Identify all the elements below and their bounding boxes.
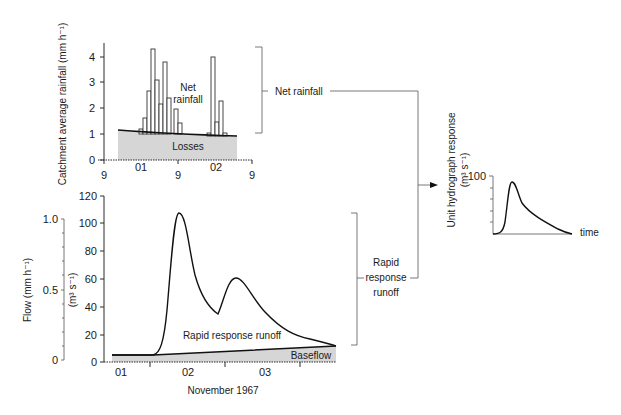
net-rainfall-area-label: Net [180, 82, 196, 93]
rapid-runoff-area-label: Rapid response runoff [183, 330, 281, 341]
flow-x-tick: 03 [259, 366, 271, 378]
net-rainfall-area-label: rainfall [173, 94, 202, 105]
flow-y-tick: 100 [79, 217, 97, 229]
flow-y-tick: 120 [79, 190, 97, 202]
rapid-runoff-bracket-label: response [365, 272, 407, 283]
uh-y-axis-units: (m³ s⁻¹) [459, 153, 470, 188]
flow-x-axis-label: November 1967 [187, 385, 259, 396]
rapid-runoff-bracket-label: runoff [373, 287, 399, 298]
hydrograph-separation-figure: 0 1 2 3 4 9 9 9 01 02 Net rainfall Losse… [0, 0, 621, 415]
flow-mm-tick: 0 [52, 354, 58, 366]
arrow-head-icon [430, 182, 438, 188]
rainfall-x-tick-hour: 9 [249, 169, 255, 181]
rainfall-y-tick: 3 [89, 76, 95, 88]
rainfall-panel: 0 1 2 3 4 9 9 9 01 02 Net rainfall Losse… [57, 23, 255, 186]
flow-x-tick: 01 [115, 366, 127, 378]
flow-m3s-axis-label: (m³ s⁻¹) [67, 273, 78, 308]
rainfall-x-tick-hour: 9 [175, 169, 181, 181]
rainfall-y-tick: 0 [89, 154, 95, 166]
uh-y-tick: 100 [468, 170, 486, 182]
net-rainfall-bracket: Net rainfall [255, 47, 418, 278]
uh-x-axis-label: time [580, 227, 599, 238]
rapid-runoff-bracket: Rapid response runoff [351, 213, 407, 345]
flow-mm-tick: 0.5 [43, 284, 58, 296]
unit-hydrograph-curve [493, 182, 572, 234]
flow-y-tick: 80 [85, 245, 97, 257]
flow-y-tick: 40 [85, 301, 97, 313]
flow-panel: 120 100 80 60 40 20 0 01 02 03 November … [22, 190, 336, 396]
arrow-to-unit-hydrograph [418, 182, 438, 188]
rainfall-x-tick-day: 01 [135, 161, 147, 173]
rainfall-x-tick-hour: 9 [101, 169, 107, 181]
baseflow-label: Baseflow [291, 350, 332, 361]
flow-mm-tick: 1.0 [43, 213, 58, 225]
rainfall-y-axis-label: Catchment average rainfall (mm h⁻¹) [57, 23, 68, 186]
net-rainfall-bracket-label: Net rainfall [275, 86, 323, 97]
flow-y-tick: 0 [91, 356, 97, 368]
rainfall-y-tick: 2 [89, 102, 95, 114]
unit-hydrograph-panel: 100 time Unit hydrograph response (m³ s⁻… [446, 112, 599, 238]
uh-y-axis-label: Unit hydrograph response [446, 112, 457, 228]
flow-mm-axis-label: Flow (mm h⁻¹) [22, 258, 33, 322]
flow-y-tick: 60 [85, 273, 97, 285]
rainfall-y-tick: 1 [89, 128, 95, 140]
rainfall-x-tick-day: 02 [210, 161, 222, 173]
rapid-runoff-bracket-label: Rapid [373, 257, 399, 268]
rainfall-y-tick: 4 [89, 51, 95, 63]
losses-label: Losses [172, 141, 204, 152]
flow-x-tick: 02 [182, 366, 194, 378]
flow-y-tick: 20 [85, 329, 97, 341]
